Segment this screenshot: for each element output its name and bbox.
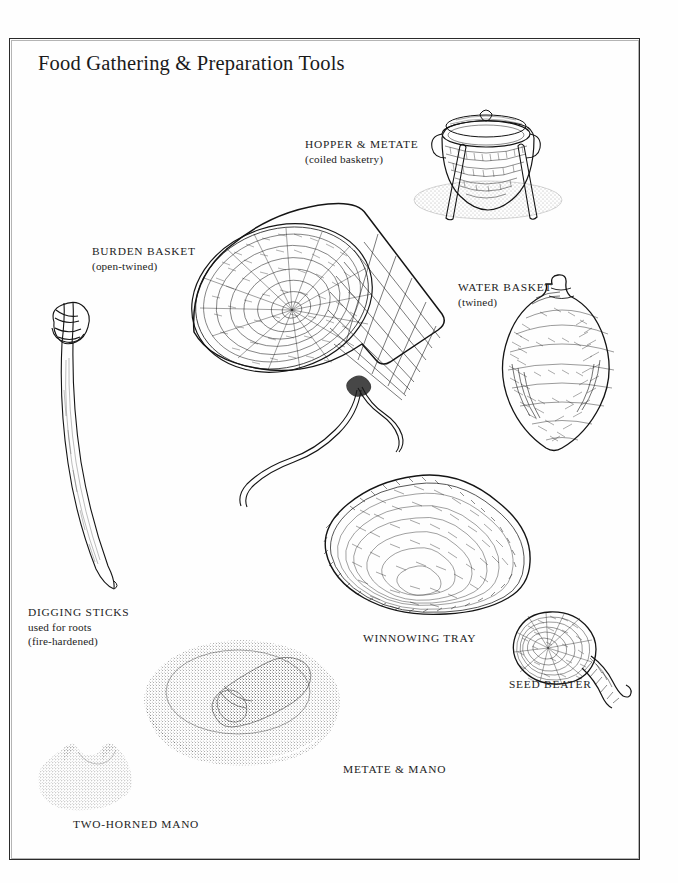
label-winnowing-tray: WINNOWING TRAY [363,632,476,646]
label-hopper-metate: HOPPER & METATE (coiled basketry) [305,138,419,166]
label-caption: METATE & MANO [343,763,446,777]
label-water-basket: WATER BASKET (twined) [458,281,552,309]
label-two-horned-mano: TWO-HORNED MANO [73,818,199,832]
label-caption: SEED BEATER [509,678,592,692]
label-caption: WATER BASKET [458,281,552,295]
label-digging-sticks: DIGGING STICKS used for roots (fire-hard… [28,606,129,648]
label-burden-basket: BURDEN BASKET (open-twined) [92,245,196,273]
page-title: Food Gathering & Preparation Tools [38,52,345,75]
illustration-plate: Food Gathering & Preparation Tools [0,0,678,883]
figure-burden-basket [182,190,452,490]
label-subcaption-2: (fire-hardened) [28,634,129,648]
figure-two-horned-mano [28,732,146,812]
label-caption: HOPPER & METATE [305,138,419,152]
label-caption: DIGGING STICKS [28,606,129,620]
label-seed-beater: SEED BEATER [509,678,592,692]
label-caption: TWO-HORNED MANO [73,818,199,832]
figure-metate-mano [138,628,358,773]
label-subcaption: (coiled basketry) [305,152,419,166]
label-subcaption: (open-twined) [92,259,196,273]
label-subcaption: used for roots [28,620,129,634]
figure-digging-sticks [42,300,132,590]
label-caption: WINNOWING TRAY [363,632,476,646]
label-subcaption: (twined) [458,295,552,309]
label-metate-mano: METATE & MANO [343,763,446,777]
label-caption: BURDEN BASKET [92,245,196,259]
